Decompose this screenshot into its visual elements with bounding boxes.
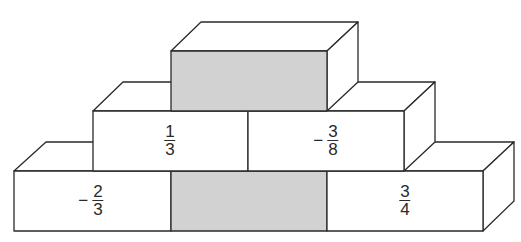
fraction-label-bottom-left: − 2 3 — [78, 183, 103, 219]
fraction-denominator: 3 — [165, 141, 174, 159]
fraction-denominator: 4 — [400, 201, 409, 219]
top-brick-top-face — [171, 22, 358, 51]
fraction-sign: − — [313, 131, 323, 151]
fraction-numerator: 3 — [327, 123, 338, 141]
brick-top — [171, 51, 327, 111]
fraction-numerator: 1 — [164, 123, 175, 141]
brick-bottom-center — [171, 171, 327, 231]
fraction-sign: − — [78, 191, 88, 211]
fraction-label-middle-right: − 3 8 — [313, 123, 338, 159]
fraction-stack: 2 3 — [92, 183, 103, 219]
fraction-stack: 1 3 — [164, 123, 175, 159]
fraction-stack: 3 4 — [399, 183, 410, 219]
fraction-label-bottom-right: 3 4 — [399, 183, 410, 219]
brick-pyramid-diagram: 1 3 − 3 8 − 2 3 3 4 — [0, 0, 521, 242]
fraction-numerator: 3 — [399, 183, 410, 201]
fraction-numerator: 2 — [92, 183, 103, 201]
fraction-stack: 3 8 — [327, 123, 338, 159]
fraction-denominator: 3 — [93, 201, 102, 219]
fraction-label-middle-left: 1 3 — [164, 123, 175, 159]
fraction-denominator: 8 — [328, 141, 337, 159]
